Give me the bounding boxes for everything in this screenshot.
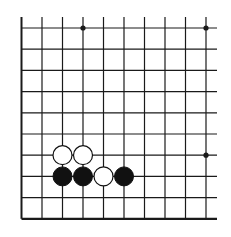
go-board (0, 0, 231, 237)
white-stone (94, 167, 113, 186)
white-stone (74, 146, 93, 165)
black-stone (74, 167, 93, 186)
black-stone (115, 167, 134, 186)
star-point (80, 25, 85, 30)
stones (53, 146, 134, 186)
board-grid (22, 17, 218, 219)
star-point (203, 25, 208, 30)
white-stone (53, 146, 72, 165)
black-stone (53, 167, 72, 186)
star-point (203, 153, 208, 158)
